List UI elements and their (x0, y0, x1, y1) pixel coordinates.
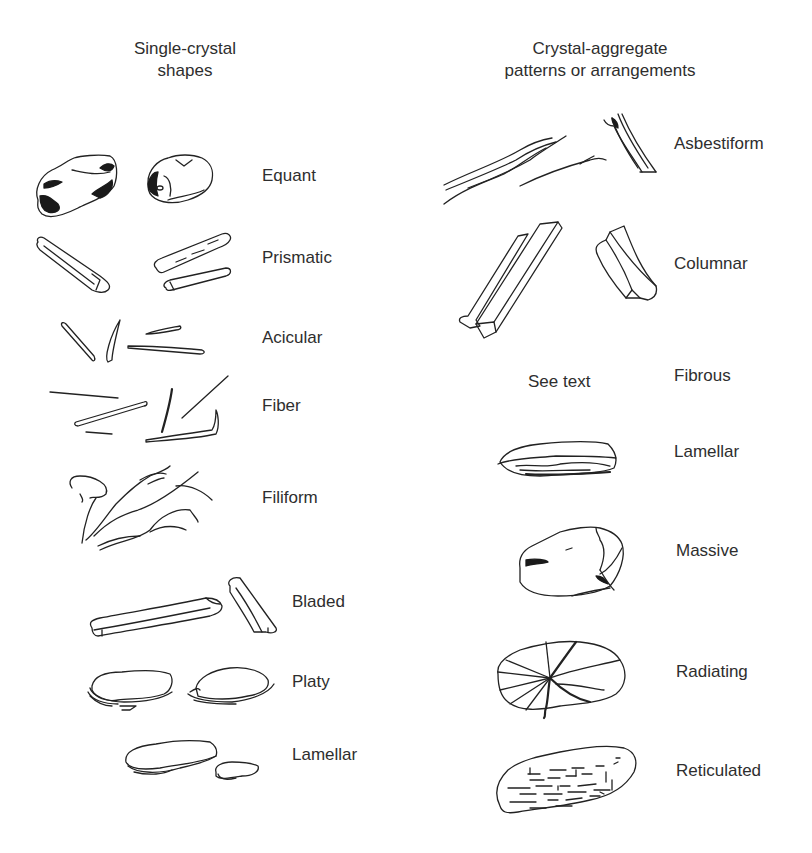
label-fiber: Fiber (262, 396, 301, 416)
prismatic-crystal-sketch (37, 233, 231, 292)
label-asbestiform: Asbestiform (674, 134, 764, 154)
columnar-sketch (459, 222, 656, 338)
label-equant: Equant (262, 166, 316, 186)
fiber-sketch (50, 376, 228, 442)
label-radiating: Radiating (676, 662, 748, 682)
label-lamellar-single: Lamellar (292, 745, 357, 765)
label-lamellar-aggregate: Lamellar (674, 442, 739, 462)
lamellar-crystal-sketch (126, 741, 259, 780)
label-platy: Platy (292, 672, 330, 692)
label-reticulated: Reticulated (676, 761, 761, 781)
bladed-crystal-sketch (90, 578, 276, 636)
label-filiform: Filiform (262, 488, 318, 508)
reticulated-sketch (497, 746, 636, 812)
acicular-crystal-sketch (61, 320, 204, 362)
filiform-sketch (70, 466, 212, 550)
label-massive: Massive (676, 541, 738, 561)
label-prismatic: Prismatic (262, 248, 332, 268)
label-columnar: Columnar (674, 254, 748, 274)
crystal-habit-illustrations (0, 0, 812, 853)
radiating-sketch (498, 641, 625, 718)
massive-sketch (520, 527, 624, 596)
label-bladed: Bladed (292, 592, 345, 612)
asbestiform-sketch (444, 114, 656, 204)
label-acicular: Acicular (262, 328, 322, 348)
platy-crystal-sketch (88, 668, 274, 710)
see-text-note: See text (528, 372, 590, 392)
equant-crystal-sketch (37, 155, 213, 216)
label-fibrous: Fibrous (674, 366, 731, 386)
lamellar-aggregate-sketch (498, 442, 616, 476)
